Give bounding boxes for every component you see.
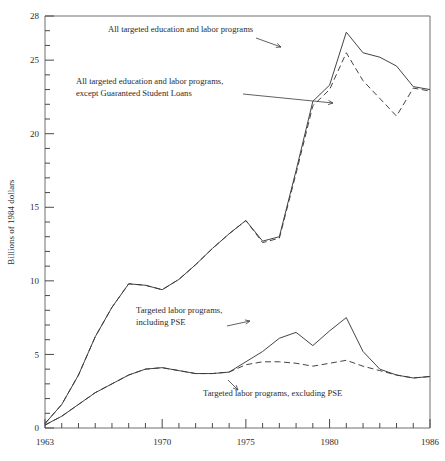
annot-labor-excluding-pse-label: Targeted labor programs, excluding PSE — [203, 388, 342, 398]
chart-container: 05101520252819631970197519801986Billions… — [0, 0, 445, 461]
x-axis-tick-label: 1975 — [237, 437, 256, 447]
x-axis-tick-label: 1986 — [421, 437, 440, 447]
y-axis-tick-label: 28 — [30, 11, 40, 21]
y-axis-tick-label: 20 — [30, 129, 40, 139]
x-axis-tick-label: 1963 — [36, 437, 55, 447]
x-axis-tick-label: 1980 — [321, 437, 340, 447]
annot-labor-including-pse-label: including PSE — [136, 317, 185, 327]
y-axis-tick-label: 5 — [35, 350, 40, 360]
annot-all-programs-label: All targeted education and labor program… — [108, 24, 254, 34]
line-chart: 05101520252819631970197519801986Billions… — [0, 0, 445, 461]
annot-all-programs-arrow-line — [256, 38, 281, 47]
y-axis-tick-label: 10 — [30, 276, 40, 286]
series-line-2 — [45, 318, 430, 425]
y-axis-tick-label: 25 — [30, 55, 40, 65]
annot-all-programs-except-gsl-label: except Guaranteed Student Loans — [76, 88, 192, 98]
annot-labor-including-pse-label: Targeted labor programs, — [136, 305, 222, 315]
annot-all-programs-except-gsl-label: All targeted education and labor program… — [76, 76, 223, 86]
y-axis-tick-label: 0 — [35, 423, 40, 433]
y-axis-title: Billions of 1984 dollars — [6, 179, 16, 265]
x-axis-tick-label: 1970 — [153, 437, 172, 447]
y-axis-tick-label: 15 — [30, 202, 40, 212]
